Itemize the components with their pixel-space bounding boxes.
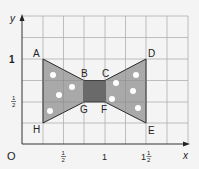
point-label-h: H [33, 124, 40, 135]
x-axis-arrow-icon [183, 142, 190, 147]
svg-text:1: 1 [62, 150, 66, 156]
y-axis-arrow-icon [20, 14, 25, 21]
svg-text:1: 1 [12, 95, 16, 101]
x-axis-label: x [182, 150, 189, 161]
point-label-c: C [102, 68, 109, 79]
y-tick-1: 1 [9, 54, 15, 65]
point-label-d: D [148, 48, 155, 59]
y-tick-half: 1 2 [11, 95, 16, 108]
origin-label: O [7, 150, 16, 162]
point-label-a: A [33, 48, 40, 59]
coordinate-grid-figure: y x O 1 1 2 1 2 1 1 1 2 A B C D E F G H [0, 0, 199, 169]
x-tick-one-and-half: 1 1 2 [141, 150, 152, 163]
svg-text:2: 2 [12, 102, 16, 108]
center-knot [84, 81, 105, 103]
point-label-b: B [81, 68, 88, 79]
svg-text:1: 1 [141, 152, 146, 162]
svg-text:2: 2 [62, 157, 66, 163]
svg-text:1: 1 [147, 150, 151, 156]
point-label-g: G [80, 104, 88, 115]
bow-tie-diagram: y x O 1 1 2 1 2 1 1 1 2 A B C D E F G H [0, 0, 199, 169]
x-tick-half: 1 2 [61, 150, 66, 163]
svg-text:2: 2 [147, 157, 151, 163]
point-label-f: F [101, 104, 107, 115]
y-axis-label: y [9, 13, 16, 24]
point-label-e: E [148, 125, 155, 136]
x-tick-1: 1 [102, 152, 107, 162]
